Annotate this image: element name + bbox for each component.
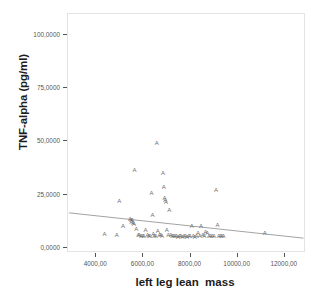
data-point-marker: A [121, 223, 125, 229]
data-point-marker: A [214, 187, 218, 193]
y-tick-label: 75,0000 [37, 84, 60, 91]
data-point-marker: A [151, 212, 155, 218]
x-tick-label: 10000,00 [223, 260, 250, 267]
data-point-marker: A [164, 199, 168, 205]
data-point-marker: A [132, 167, 136, 173]
y-tick-label: 100,0000 [33, 31, 60, 38]
regression-line [68, 14, 304, 251]
data-point-marker: A [149, 190, 153, 196]
x-axis-title: left leg lean mass [60, 276, 310, 288]
plot-canvas: AAAAAAAAAAAAAAAAAAAAAAAAAAAAAAAAAAAAAAAA… [68, 14, 304, 251]
data-point-marker: A [199, 223, 203, 229]
data-point-marker: A [162, 184, 166, 190]
x-tick-label: 4000,00 [84, 260, 107, 267]
y-tick-label: 0,0000 [40, 243, 60, 250]
x-tick-mark [190, 253, 191, 257]
data-point-marker: A [222, 233, 226, 239]
data-point-marker: A [161, 170, 165, 176]
data-point-marker: A [155, 140, 159, 146]
data-point-marker: A [160, 233, 164, 239]
x-tick-label: 12000,00 [270, 260, 297, 267]
x-tick-label: 8000,00 [178, 260, 201, 267]
x-tick-mark [142, 253, 143, 257]
data-point-marker: A [215, 222, 219, 228]
x-tick-mark [237, 253, 238, 257]
data-point-marker: A [212, 233, 216, 239]
data-point-marker: A [115, 232, 119, 238]
data-point-marker: A [103, 231, 107, 237]
data-point-marker: A [167, 207, 171, 213]
y-axis-title: TNF-alpha (pg/ml) [17, 17, 29, 187]
data-point-marker: A [263, 230, 267, 236]
x-tick-label: 6000,00 [131, 260, 154, 267]
y-tick-label: 50,0000 [37, 137, 60, 144]
scatter-plot-figure: TNF-alpha (pg/ml) left leg lean mass 0,0… [0, 0, 315, 304]
data-point-marker: A [117, 198, 121, 204]
data-point-marker: A [190, 223, 194, 229]
y-tick-label: 25,0000 [37, 190, 60, 197]
x-tick-mark [95, 253, 96, 257]
plot-frame: AAAAAAAAAAAAAAAAAAAAAAAAAAAAAAAAAAAAAAAA… [67, 13, 305, 252]
x-tick-mark [284, 253, 285, 257]
